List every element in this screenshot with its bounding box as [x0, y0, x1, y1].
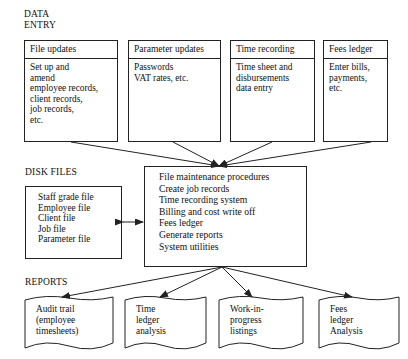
box-header: File updates: [25, 41, 117, 59]
central-processing-box[interactable]: File maintenance procedures Create job r…: [144, 166, 307, 267]
report-line: progress: [230, 315, 304, 326]
report-text: Time ledger analysis: [124, 295, 207, 336]
report-box-time-ledger-analysis[interactable]: Time ledger analysis: [124, 295, 207, 353]
box-body: Set up and amend employee records, clien…: [25, 59, 117, 126]
arrow-central-to-time-ledger-analysis: [160, 267, 222, 297]
diagram-canvas: DATA ENTRY DISK FILES REPORTS File updat…: [0, 0, 408, 359]
report-line: Analysis: [330, 326, 400, 337]
report-line: Work-in-: [230, 304, 304, 315]
box-line: Staff grade file: [38, 192, 121, 203]
box-line: Client file: [38, 213, 121, 224]
report-line: Fees: [330, 304, 400, 315]
box-header: Parameter updates: [129, 41, 220, 59]
box-line: File maintenance procedures: [159, 171, 306, 183]
box-line: employee records,: [30, 83, 117, 94]
report-text: Fees ledger Analysis: [318, 295, 400, 336]
box-body: Passwords VAT rates, etc.: [129, 59, 220, 83]
arrow-central-to-fees-ledger-analysis: [222, 267, 352, 297]
box-body: Time sheet and disbursements data entry: [231, 59, 314, 94]
box-line: Fees ledger: [159, 217, 306, 229]
box-line: etc.: [30, 115, 117, 126]
box-body: Enter bills, payments, etc.: [324, 59, 387, 94]
section-label-disk-files: DISK FILES: [25, 167, 77, 178]
report-box-work-in-progress-listings[interactable]: Work-in- progress listings: [218, 295, 304, 353]
box-line: payments,: [329, 73, 387, 84]
box-line: VAT rates, etc.: [134, 73, 220, 84]
report-line: timesheets): [36, 326, 114, 337]
report-line: ledger: [330, 315, 400, 326]
box-line: data entry: [236, 83, 314, 94]
arrow-parameter-updates-to-central: [173, 142, 219, 166]
arrow-time-recording-to-central: [219, 142, 272, 166]
report-box-audit-trail[interactable]: Audit trail (employee timesheets): [24, 295, 114, 353]
data-entry-box-fees-ledger[interactable]: Fees ledger Enter bills, payments, etc.: [323, 40, 388, 142]
report-text: Audit trail (employee timesheets): [24, 295, 114, 336]
report-line: Audit trail: [36, 304, 114, 315]
box-line: Passwords: [134, 62, 220, 73]
data-entry-box-parameter-updates[interactable]: Parameter updates Passwords VAT rates, e…: [128, 40, 221, 142]
report-line: Time: [136, 304, 207, 315]
box-line: amend: [30, 73, 117, 84]
box-line: Parameter file: [38, 234, 121, 245]
box-line: job records,: [30, 104, 117, 115]
arrow-file-updates-to-central: [71, 142, 219, 166]
section-label-reports: REPORTS: [25, 277, 68, 288]
box-line: Job file: [38, 224, 121, 235]
box-header: Time recording: [231, 41, 314, 59]
disk-files-box[interactable]: Staff grade file Employee file Client fi…: [25, 186, 122, 259]
box-line: Time recording system: [159, 194, 306, 206]
report-line: analysis: [136, 326, 207, 337]
report-line: listings: [230, 326, 304, 337]
box-line: Generate reports: [159, 229, 306, 241]
report-line: (employee: [36, 315, 114, 326]
report-box-fees-ledger-analysis[interactable]: Fees ledger Analysis: [318, 295, 400, 353]
box-line: Set up and: [30, 62, 117, 73]
data-entry-box-time-recording[interactable]: Time recording Time sheet and disburseme…: [230, 40, 315, 142]
box-line: Billing and cost write off: [159, 206, 306, 218]
box-line: System utilities: [159, 241, 306, 253]
box-line: Enter bills,: [329, 62, 387, 73]
box-line: etc.: [329, 83, 387, 94]
arrow-central-to-work-in-progress: [222, 267, 252, 297]
box-line: Time sheet and: [236, 62, 314, 73]
arrow-fees-ledger-to-central: [219, 142, 371, 166]
section-label-data-entry: DATA ENTRY: [24, 9, 56, 31]
report-text: Work-in- progress listings: [218, 295, 304, 336]
box-line: Employee file: [38, 203, 121, 214]
box-body: File maintenance procedures Create job r…: [145, 167, 306, 252]
box-line: client records,: [30, 94, 117, 105]
box-body: Staff grade file Employee file Client fi…: [26, 187, 121, 245]
box-line: Create job records: [159, 183, 306, 195]
box-header: Fees ledger: [324, 41, 387, 59]
data-entry-box-file-updates[interactable]: File updates Set up and amend employee r…: [24, 40, 118, 142]
arrow-central-to-audit-trail: [62, 267, 222, 297]
box-line: disbursements: [236, 73, 314, 84]
report-line: ledger: [136, 315, 207, 326]
